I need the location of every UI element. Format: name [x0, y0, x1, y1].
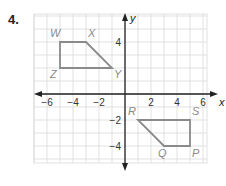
y-tick-label: −2: [110, 115, 122, 126]
y-tick-label: −4: [110, 141, 122, 152]
x-tick-label: 4: [174, 97, 180, 108]
x-tick-label: −4: [67, 97, 79, 108]
vertex-label-w: W: [50, 27, 62, 39]
vertex-label-x: X: [87, 27, 96, 39]
vertex-label-q: Q: [158, 147, 167, 159]
vertex-label-p: P: [192, 147, 200, 159]
vertex-label-r: R: [128, 105, 136, 117]
x-axis-label: x: [218, 96, 225, 108]
vertex-label-s: S: [192, 105, 200, 117]
coordinate-grid: xy −6−4−22464−2−4 WXYZRSPQ: [0, 0, 226, 186]
x-tick-label: 6: [200, 97, 206, 108]
x-tick-label: 2: [148, 97, 154, 108]
y-tick-label: 4: [115, 37, 121, 48]
y-axis-down-arrow-icon: [122, 163, 128, 171]
x-tick-label: −2: [93, 97, 105, 108]
x-axis-right-arrow-icon: [210, 91, 218, 97]
x-tick-label: −6: [41, 97, 53, 108]
vertex-label-y: Y: [114, 68, 122, 80]
vertex-label-z: Z: [49, 68, 58, 80]
